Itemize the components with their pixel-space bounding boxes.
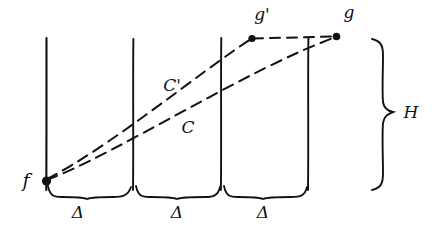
diagram-canvas: f g' g C' C H Δ Δ Δ [0,0,438,232]
height-brace-path [372,39,393,190]
curve-c-prime-flat [253,37,335,39]
label-point-g: g [344,2,355,22]
delta-brace-3-path [224,186,307,199]
curve-c-prime-group [47,37,335,180]
curve-c-path [47,37,336,180]
point-g-dot [333,33,341,41]
label-delta-2: Δ [170,202,183,222]
label-delta-3: Δ [256,202,269,222]
delta-braces-group [48,186,307,199]
label-point-f: f [20,169,32,191]
label-curve-c: C [181,117,194,137]
height-brace-group [372,39,393,190]
curve-c-group [47,37,336,180]
label-point-g-prime: g' [254,4,270,24]
delta-brace-2-path [136,186,220,199]
delta-brace-1-path [48,186,131,199]
figure-root: f g' g C' C H Δ Δ Δ [0,0,438,232]
label-delta-1: Δ [71,202,84,222]
label-curve-c-prime: C' [163,75,181,95]
label-height-h: H [403,102,420,122]
point-f-dot [42,176,51,185]
point-g-prime-dot [248,35,255,42]
